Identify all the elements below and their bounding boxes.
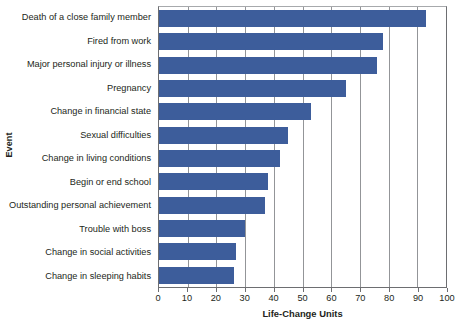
x-axis-tick-label: 50: [297, 293, 307, 303]
x-axis-tick-label: 40: [268, 293, 278, 303]
bar: [159, 127, 288, 144]
category-label: Change in living conditions: [16, 147, 156, 171]
category-label: Trouble with boss: [16, 218, 156, 242]
bar: [159, 243, 236, 260]
x-axis-tick: [360, 288, 361, 292]
bar: [159, 33, 383, 50]
category-label: Change in sleeping habits: [16, 265, 156, 289]
bar: [159, 57, 377, 74]
category-label: Change in social activities: [16, 241, 156, 265]
x-axis-title: Life-Change Units: [158, 308, 447, 319]
x-axis-tick-label: 80: [384, 293, 394, 303]
x-axis-tick: [303, 288, 304, 292]
category-label: Major personal injury or illness: [16, 53, 156, 77]
x-axis-tick: [331, 288, 332, 292]
bar-row: [159, 264, 446, 287]
y-axis-title: Event: [0, 0, 16, 290]
x-axis-tick-label: 20: [211, 293, 221, 303]
bar-row: [159, 217, 446, 240]
x-axis-tick-label: 0: [155, 293, 160, 303]
bar-row: [159, 194, 446, 217]
category-label: Fired from work: [16, 30, 156, 54]
x-axis-tick: [274, 288, 275, 292]
bar-row: [159, 124, 446, 147]
bar-row: [159, 54, 446, 77]
category-label: Outstanding personal achievement: [16, 194, 156, 218]
bar-row: [159, 240, 446, 263]
category-axis-labels: Death of a close family memberFired from…: [16, 6, 156, 288]
category-label: Death of a close family member: [16, 6, 156, 30]
bar: [159, 267, 234, 284]
bar: [159, 10, 426, 27]
x-axis-tick: [447, 288, 448, 292]
category-label: Begin or end school: [16, 171, 156, 195]
x-axis-tick: [216, 288, 217, 292]
x-axis-tick-label: 10: [182, 293, 192, 303]
category-label: Sexual difficulties: [16, 124, 156, 148]
y-axis-title-label: Event: [3, 132, 13, 157]
bar-row: [159, 30, 446, 53]
bar: [159, 80, 346, 97]
x-axis-tick: [418, 288, 419, 292]
x-axis-tick: [158, 288, 159, 292]
bar: [159, 220, 245, 237]
bar-row: [159, 170, 446, 193]
x-axis-tick-label: 100: [439, 293, 454, 303]
bar-row: [159, 77, 446, 100]
bar-row: [159, 147, 446, 170]
x-axis-tick: [389, 288, 390, 292]
bar-row: [159, 100, 446, 123]
bar-chart: Event Death of a close family memberFire…: [0, 0, 462, 328]
bar: [159, 103, 311, 120]
x-axis-tick: [187, 288, 188, 292]
x-axis-tick-labels: 0102030405060708090100: [158, 293, 447, 307]
category-label: Pregnancy: [16, 77, 156, 101]
bar: [159, 173, 268, 190]
bar: [159, 197, 265, 214]
x-axis-tick-marks: [158, 288, 447, 292]
x-axis-tick-label: 60: [326, 293, 336, 303]
category-label: Change in financial state: [16, 100, 156, 124]
plot-area: [158, 6, 447, 288]
bar: [159, 150, 280, 167]
x-axis-tick-label: 30: [240, 293, 250, 303]
bars-layer: [159, 7, 446, 287]
bar-row: [159, 7, 446, 30]
x-axis-tick-label: 90: [413, 293, 423, 303]
x-axis-tick: [245, 288, 246, 292]
x-axis-tick-label: 70: [355, 293, 365, 303]
